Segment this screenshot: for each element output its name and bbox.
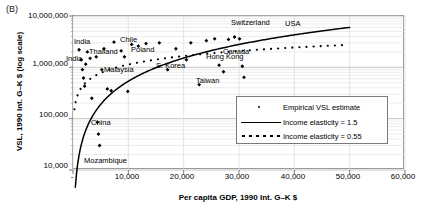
y-tick-label-100000: 100,000	[0, 110, 68, 119]
legend: Empirical VSL estimate Income elasticity…	[236, 96, 388, 144]
diamond-marker-icon	[237, 99, 283, 115]
dotted-line-icon	[237, 128, 283, 144]
annotation-india: India	[74, 38, 90, 46]
x-tick-label-50000: 50,000	[318, 172, 378, 181]
x-tick-label-20000: 20,000	[152, 172, 212, 181]
legend-label-elasticity-055: Income elasticity = 0.55	[283, 132, 362, 141]
annotation-hong-kong: Hong Kong	[206, 53, 244, 61]
y-axis-title: VSL, 1990 Int. G–K $ (log scale)	[15, 7, 24, 177]
x-tick-label-40000: 40,000	[263, 172, 323, 181]
x-tick-label-60000: 60,000	[373, 172, 426, 181]
annotation-india: India	[66, 55, 82, 63]
annotation-mozambique: Mozambique	[84, 157, 127, 165]
x-tick-label-10000: 10,000	[97, 172, 157, 181]
annotation-chile: Chile	[120, 36, 137, 44]
annotation-thailand: Thailand	[89, 48, 118, 56]
annotation-china: China	[91, 119, 111, 127]
legend-label-elasticity-15: Income elasticity = 1.5	[283, 118, 357, 127]
legend-label-empirical: Empirical VSL estimate	[283, 103, 360, 112]
annotation-taiwan: Taiwan	[196, 77, 219, 85]
annotation-usa: USA	[285, 20, 300, 28]
annotation-switzerland: Switzerland	[231, 19, 270, 27]
x-tick-label-30000: 30,000	[207, 172, 267, 181]
annotation-poland: Poland	[131, 46, 154, 54]
legend-item-empirical: Empirical VSL estimate	[237, 99, 389, 115]
figure-panel-b: (B) VSL, 1990 Int. G–K $ (log scale) Per…	[0, 0, 426, 212]
x-tick-label-0: -	[42, 172, 102, 181]
y-tick-label-10000000: 10,000,000	[0, 11, 68, 20]
annotation-malaysia: Malaysia	[104, 66, 134, 74]
y-tick-label-1000000: 1,000,000	[0, 59, 68, 68]
legend-item-elasticity-055: Income elasticity = 0.55	[237, 128, 389, 144]
annotation-s-korea: S. Korea	[156, 62, 185, 70]
x-axis-title: Per capita GDP, 1990 Int. G–K $	[72, 193, 404, 202]
y-tick-label-10000: 10,000	[0, 161, 68, 170]
